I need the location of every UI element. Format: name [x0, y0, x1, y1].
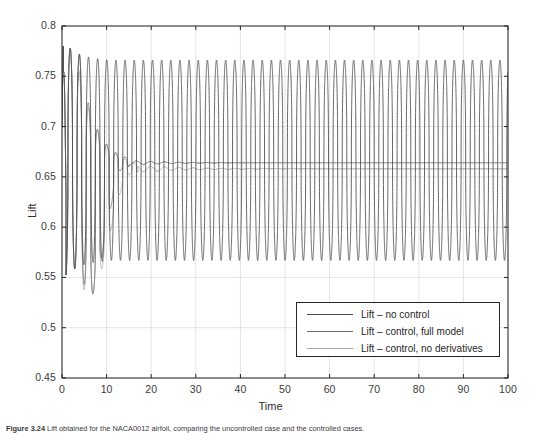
caption-text: Lift obtained for the NACA0012 airfoil, … — [47, 424, 364, 433]
legend-swatch — [307, 331, 353, 332]
x-tick-label: 40 — [220, 383, 260, 395]
y-tick-label: 0.55 — [16, 270, 56, 282]
x-tick-label: 60 — [310, 383, 350, 395]
y-tick-label: 0.8 — [16, 19, 56, 31]
legend-item: Lift – control, full model — [297, 323, 499, 340]
legend-swatch — [307, 314, 353, 315]
y-tick-label: 0.75 — [16, 69, 56, 81]
legend-label: Lift – control, full model — [361, 326, 464, 337]
figure-caption: Figure 3.24 Lift obtained for the NACA00… — [6, 424, 534, 433]
legend-item: Lift – control, no derivatives — [297, 340, 499, 357]
legend-item: Lift – no control — [297, 306, 499, 323]
legend-label: Lift – control, no derivatives — [361, 343, 483, 354]
y-axis-title: Lift — [26, 203, 38, 218]
x-tick-label: 80 — [399, 383, 439, 395]
x-tick-label: 30 — [176, 383, 216, 395]
caption-prefix: Figure 3.24 — [6, 424, 47, 433]
plot-canvas — [0, 0, 541, 433]
y-tick-label: 0.65 — [16, 170, 56, 182]
y-tick-label: 0.7 — [16, 120, 56, 132]
x-tick-label: 20 — [131, 383, 171, 395]
legend: Lift – no controlLift – control, full mo… — [296, 302, 500, 357]
x-tick-label: 100 — [488, 383, 528, 395]
y-tick-label: 0.6 — [16, 220, 56, 232]
x-tick-label: 70 — [354, 383, 394, 395]
legend-label: Lift – no control — [361, 309, 429, 320]
x-tick-label: 10 — [87, 383, 127, 395]
x-tick-label: 90 — [443, 383, 483, 395]
y-tick-label: 0.5 — [16, 321, 56, 333]
lift-time-figure: Lift Time 0.450.50.550.60.650.70.750.801… — [0, 0, 541, 433]
x-tick-label: 0 — [42, 383, 82, 395]
legend-swatch — [307, 348, 353, 349]
x-tick-label: 50 — [265, 383, 305, 395]
x-axis-title: Time — [0, 400, 541, 412]
y-tick-label: 0.45 — [16, 371, 56, 383]
